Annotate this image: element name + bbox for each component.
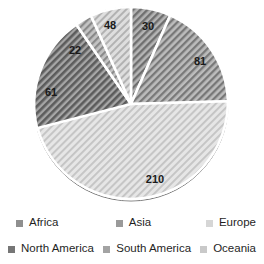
legend-swatch-oceania — [200, 246, 207, 253]
legend-item-europe[interactable]: Europe — [206, 217, 256, 229]
pie-chart-area: 30 81 210 61 22 48 — [0, 0, 264, 205]
legend-label-south-america: South America — [116, 243, 191, 255]
legend-item-asia[interactable]: Asia — [116, 217, 206, 229]
legend-swatch-africa — [16, 220, 23, 227]
legend-swatch-europe — [206, 220, 213, 227]
pie-label-north-america: 61 — [45, 86, 57, 98]
legend-swatch-north-america — [8, 246, 15, 253]
legend-row-2: North America South America Oceania — [8, 236, 256, 262]
legend-label-asia: Asia — [129, 217, 151, 229]
pie-label-asia: 81 — [194, 55, 206, 67]
pie-slices — [34, 7, 228, 199]
pie-label-oceania: 48 — [104, 19, 116, 31]
legend-item-africa[interactable]: Africa — [16, 217, 116, 229]
pie-label-south-america: 22 — [69, 44, 81, 56]
chart-legend: Africa Asia Europe North America South A… — [0, 206, 264, 264]
legend-item-oceania[interactable]: Oceania — [200, 243, 256, 255]
legend-label-oceania: Oceania — [213, 243, 256, 255]
pie-chart-svg: 30 81 210 61 22 48 — [0, 0, 264, 205]
legend-label-africa: Africa — [29, 217, 58, 229]
legend-swatch-asia — [116, 220, 123, 227]
legend-item-south-america[interactable]: South America — [103, 243, 200, 255]
pie-label-africa: 30 — [142, 20, 154, 32]
legend-swatch-south-america — [103, 246, 110, 253]
legend-label-north-america: North America — [21, 243, 94, 255]
legend-item-north-america[interactable]: North America — [8, 243, 103, 255]
legend-row-1: Africa Asia Europe — [8, 210, 256, 236]
pie-label-europe: 210 — [146, 173, 164, 185]
legend-label-europe: Europe — [219, 217, 256, 229]
pie-chart-page: 30 81 210 61 22 48 Africa Asia Europe — [0, 0, 264, 264]
